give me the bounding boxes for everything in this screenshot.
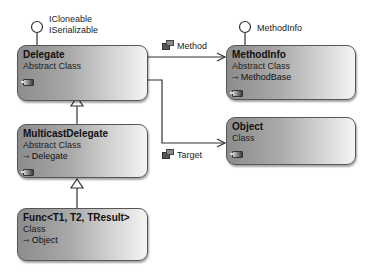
class-box-func[interactable]: Func<T1, T2, TResult> Class ⇾Object	[17, 208, 148, 261]
collapse-toggle-icon[interactable]	[232, 90, 243, 97]
property-icon	[162, 149, 174, 159]
class-kind: Class	[232, 133, 350, 144]
collapse-toggle-icon[interactable]	[23, 79, 34, 86]
class-box-methodinfo[interactable]: MethodInfo Abstract Class ⇾MethodBase	[226, 45, 356, 100]
class-box-delegate[interactable]: Delegate Abstract Class	[17, 45, 148, 101]
class-name: Func<T1, T2, TResult>	[23, 212, 142, 224]
class-kind: Class	[23, 224, 142, 235]
inherits-arrow-icon: ⇾	[23, 152, 30, 161]
interface-label-icloneable: ICloneable	[49, 14, 92, 24]
inherits-arrow-icon: ⇾	[232, 73, 239, 82]
class-kind: Abstract Class	[23, 61, 142, 72]
class-name: MulticastDelegate	[23, 128, 142, 140]
base-class: ⇾Delegate	[23, 151, 142, 162]
class-name: Delegate	[23, 49, 142, 61]
base-class-name: Delegate	[32, 151, 68, 161]
inherits-arrow-icon: ⇾	[23, 236, 30, 245]
interface-label-iserializable: ISerializable	[49, 25, 98, 35]
base-class: ⇾Object	[23, 235, 142, 246]
interface-label-methodinfo: MethodInfo	[257, 23, 302, 33]
base-class-name: Object	[32, 235, 58, 245]
collapse-toggle-icon[interactable]	[23, 169, 34, 176]
base-class-name: MethodBase	[241, 72, 292, 82]
collapse-toggle-icon[interactable]	[232, 151, 243, 158]
class-diagram-canvas: ICloneable ISerializable MethodInfo Meth…	[0, 0, 369, 279]
class-box-multicastdelegate[interactable]: MulticastDelegate Abstract Class ⇾Delega…	[17, 124, 148, 178]
association-label-target: Target	[177, 150, 202, 160]
class-kind: Abstract Class	[23, 140, 142, 151]
class-name: Object	[232, 121, 350, 133]
class-box-object[interactable]: Object Class	[226, 117, 356, 165]
property-icon	[162, 40, 174, 50]
base-class: ⇾MethodBase	[232, 72, 350, 83]
class-name: MethodInfo	[232, 49, 350, 61]
class-kind: Abstract Class	[232, 61, 350, 72]
association-label-method: Method	[177, 41, 207, 51]
